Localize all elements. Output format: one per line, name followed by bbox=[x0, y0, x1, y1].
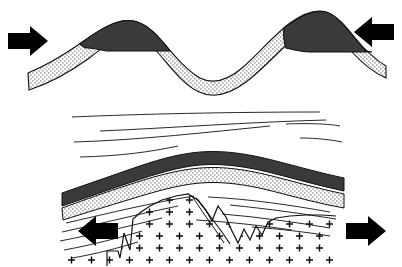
geology-cross-section-svg bbox=[0, 0, 402, 267]
geology-figure bbox=[0, 0, 402, 267]
